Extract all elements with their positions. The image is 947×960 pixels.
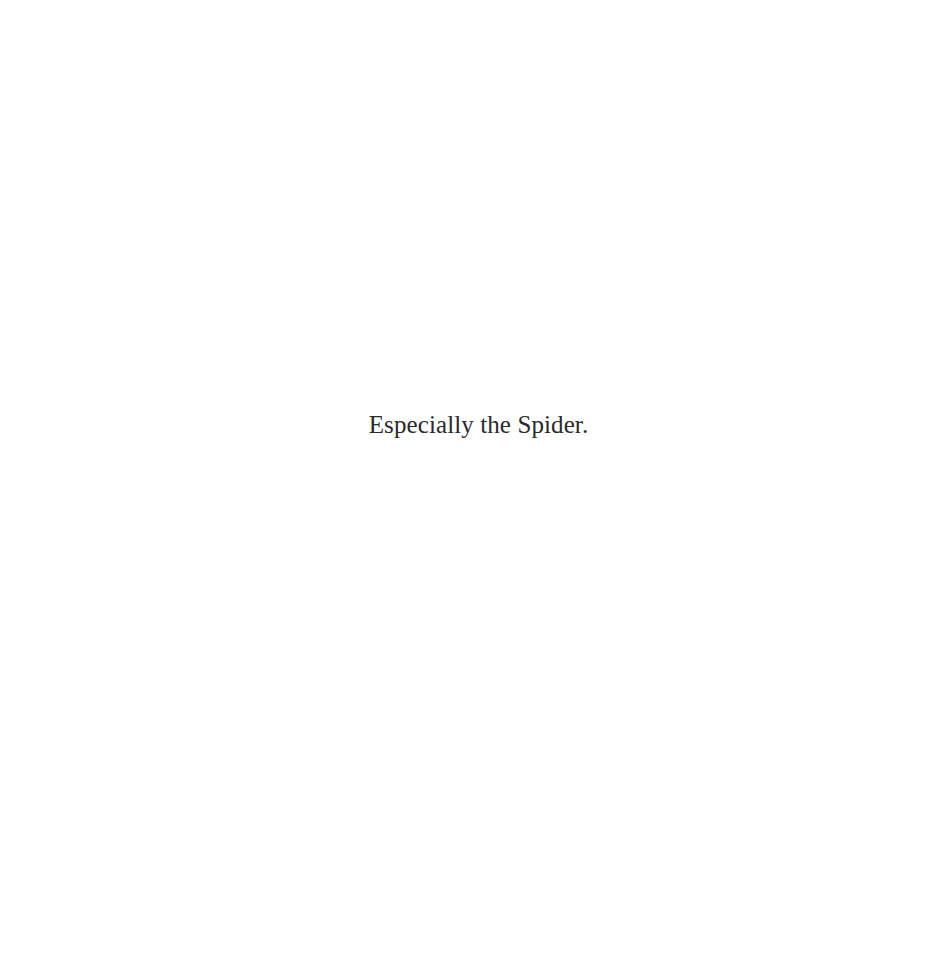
book-page: Especially the Spider.	[0, 0, 947, 960]
page-text: Especially the Spider.	[0, 408, 947, 442]
